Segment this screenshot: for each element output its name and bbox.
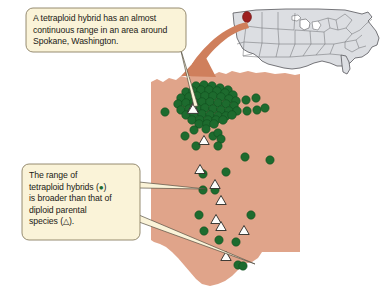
callout2-line5-post: ). [69, 216, 74, 226]
callout2-line2-post: ) [104, 182, 107, 192]
callout-range-comparison-text: The range oftetraploid hybrids (●)is bro… [29, 170, 133, 228]
callout2-line3: is broader than that of [29, 193, 112, 203]
callout2-line2-pre: tetraploid hybrids ( [29, 182, 99, 192]
callout2-line1: The range of [29, 170, 77, 180]
spokane-location-marker [243, 12, 252, 23]
callout-spokane-text: A tetraploid hybrid has an almost contin… [33, 13, 179, 48]
callout2-line4: diploid parental [29, 205, 87, 215]
callout2-line5-pre: species ( [29, 216, 63, 226]
